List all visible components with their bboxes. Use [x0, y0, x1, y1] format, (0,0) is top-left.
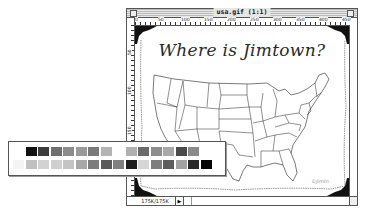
palette-swatch[interactable] [113, 147, 124, 156]
ruler-label: 50 [158, 17, 164, 22]
palette-swatch[interactable] [38, 147, 49, 156]
palette-swatch[interactable] [13, 147, 24, 156]
palette-row-1 [13, 147, 213, 156]
palette-swatch[interactable] [88, 160, 99, 169]
palette-swatch[interactable] [151, 160, 162, 169]
status-popup-arrow[interactable]: ▶ [176, 197, 184, 205]
ruler-label: 100 [127, 86, 132, 95]
ruler-label: 450 [342, 17, 351, 22]
ruler-label: 150 [127, 126, 132, 135]
vertical-scrollbar[interactable] [349, 25, 357, 197]
palette-swatch[interactable] [101, 160, 112, 169]
horizontal-ruler[interactable]: 050100150200250300350400450 [135, 18, 349, 26]
palette-swatch[interactable] [138, 147, 149, 156]
image-signature: ©Jimtn [311, 178, 329, 184]
palette-swatch[interactable] [26, 160, 37, 169]
palette-swatch[interactable] [126, 160, 137, 169]
palette-swatch[interactable] [13, 160, 24, 169]
palette-swatch[interactable] [38, 160, 49, 169]
file-size-indicator[interactable]: 175K/175K [135, 197, 176, 205]
palette-swatch[interactable] [88, 147, 99, 156]
palette-swatch[interactable] [201, 147, 212, 156]
color-palette [8, 141, 226, 176]
image-window: usa.gif (1:1) 05010015020025030035040045… [126, 8, 358, 206]
ruler-label: 150 [204, 17, 213, 22]
palette-swatch[interactable] [51, 147, 62, 156]
ruler-label: 300 [273, 17, 282, 22]
palette-swatch[interactable] [63, 160, 74, 169]
palette-swatch[interactable] [201, 160, 212, 169]
palette-row-2 [13, 160, 213, 169]
ruler-label: 50 [127, 49, 132, 55]
palette-swatch[interactable] [188, 160, 199, 169]
horizontal-scrollbar[interactable] [184, 197, 192, 205]
palette-swatch[interactable] [176, 160, 187, 169]
palette-swatch[interactable] [176, 147, 187, 156]
palette-swatch[interactable] [163, 147, 174, 156]
ruler-label: 200 [227, 17, 236, 22]
palette-swatch[interactable] [163, 160, 174, 169]
ruler-label: 350 [296, 17, 305, 22]
palette-swatch[interactable] [151, 147, 162, 156]
status-bar: 175K/175K ▶ [127, 196, 357, 205]
palette-swatch[interactable] [101, 147, 112, 156]
palette-swatch[interactable] [138, 160, 149, 169]
ruler-label: 0 [135, 17, 138, 22]
close-box-button[interactable] [130, 10, 137, 17]
resize-grow-box[interactable] [349, 197, 357, 205]
palette-swatch[interactable] [51, 160, 62, 169]
ruler-label: 400 [319, 17, 328, 22]
palette-swatch[interactable] [126, 147, 137, 156]
palette-swatch[interactable] [26, 147, 37, 156]
palette-swatch[interactable] [63, 147, 74, 156]
ruler-label: 100 [181, 17, 190, 22]
ruler-label: 250 [250, 17, 259, 22]
palette-swatch[interactable] [76, 160, 87, 169]
palette-swatch[interactable] [188, 147, 199, 156]
palette-swatch[interactable] [113, 160, 124, 169]
zoom-box-button[interactable] [347, 10, 354, 17]
palette-swatch[interactable] [76, 147, 87, 156]
window-title: usa.gif (1:1) [214, 8, 271, 17]
image-heading: Where is Jimtown? [135, 40, 349, 60]
